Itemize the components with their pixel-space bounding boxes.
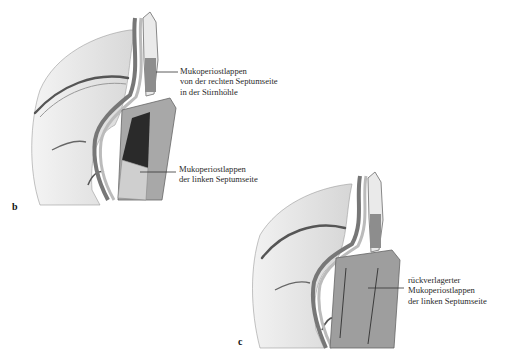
panel-c-drawing (253, 172, 405, 348)
label-line: der linken Septumseite (179, 174, 258, 184)
label-line: rückverlagerter (408, 275, 487, 285)
label-line: Mukoperiostlappen (180, 66, 278, 76)
label-line: der linken Septumseite (408, 296, 487, 306)
label-line: in der Stirnhöhle (180, 87, 278, 97)
panel-b-drawing (32, 12, 178, 205)
label-line: Mukoperiostlappen (179, 164, 258, 174)
panel-letter-c: c (238, 336, 242, 347)
label-frontal-sinus-flap: Mukoperiostlappen von der rechten Septum… (180, 66, 278, 97)
label-line: von der rechten Septumseite (180, 76, 278, 86)
label-line: Mukoperiostlappen (408, 285, 487, 295)
panel-letter-b: b (12, 201, 18, 212)
label-repositioned-flap: rückverlagerter Mukoperiostlappen der li… (408, 275, 487, 306)
label-left-septum-flap: Mukoperiostlappen der linken Septumseite (179, 164, 258, 185)
